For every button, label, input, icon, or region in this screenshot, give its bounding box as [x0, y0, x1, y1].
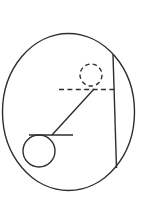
raised-bob-dashed-circle	[80, 64, 102, 86]
rest-bob-circle	[23, 135, 55, 167]
pendulum-string-line	[52, 89, 94, 135]
vertical-chord-line	[113, 55, 117, 169]
pendulum-diagram-svg	[0, 0, 146, 212]
pendulum-diagram-figure	[0, 0, 146, 212]
